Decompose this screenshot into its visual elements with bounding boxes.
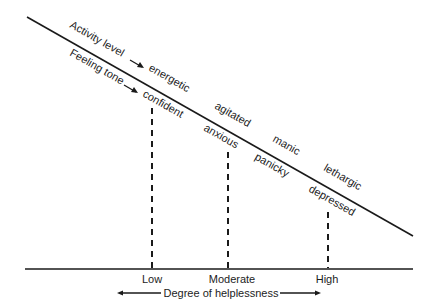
helplessness-diagram: Activity level energetic agitated manic …: [0, 0, 435, 308]
feeling-arrow-icon: [124, 85, 138, 93]
diagonal-line: [27, 17, 413, 236]
activity-state-agitated: agitated: [213, 99, 253, 129]
feeling-state-anxious: anxious: [202, 121, 241, 150]
activity-arrow-icon: [130, 60, 144, 68]
feeling-state-panicky: panicky: [253, 150, 292, 179]
axis-title: Degree of helplessness: [164, 287, 279, 299]
activity-state-manic: manic: [271, 132, 303, 157]
level-moderate: Moderate: [209, 273, 255, 285]
level-high: High: [316, 273, 339, 285]
level-low: Low: [142, 273, 162, 285]
